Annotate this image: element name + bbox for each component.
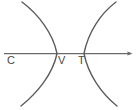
point-label-c: C bbox=[7, 55, 15, 66]
point-label-t: T bbox=[78, 55, 85, 66]
diagram-vector-layer bbox=[0, 0, 137, 110]
point-label-v: V bbox=[58, 55, 65, 66]
diagram-canvas: C V T bbox=[0, 0, 137, 110]
axis-arrowhead-icon bbox=[128, 52, 133, 56]
horizontal-axis-group bbox=[4, 52, 133, 56]
